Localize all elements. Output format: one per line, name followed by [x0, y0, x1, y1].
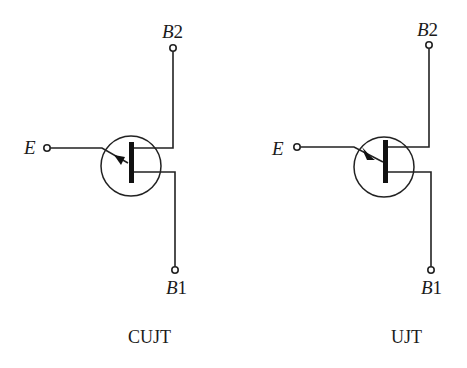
cujt-base2-lead — [134, 51, 173, 148]
ujt-base2-terminal — [426, 42, 432, 48]
ujt-symbol: E B2 B1 UJT — [271, 19, 442, 347]
ujt-emitter-terminal — [294, 144, 300, 150]
cujt-caption: CUJT — [128, 327, 171, 347]
ujt-symbols-diagram: E B2 B1 CUJT E — [0, 0, 467, 368]
ujt-base-bar — [383, 140, 388, 183]
ujt-emitter-label: E — [271, 138, 284, 159]
ujt-base1-terminal — [428, 267, 434, 273]
cujt-base1-terminal — [172, 267, 178, 273]
ujt-emitter-arrow-fill — [363, 151, 375, 160]
cujt-symbol: E B2 B1 CUJT — [23, 21, 187, 347]
cujt-emitter-terminal — [44, 145, 50, 151]
cujt-base1-label: B1 — [166, 277, 187, 298]
ujt-base2-lead — [388, 48, 429, 147]
cujt-base2-label: B2 — [162, 21, 183, 42]
cujt-base1-lead — [134, 172, 175, 267]
cujt-base-bar — [129, 142, 134, 183]
ujt-caption: UJT — [391, 327, 422, 347]
cujt-emitter-arrow-icon — [114, 155, 125, 165]
ujt-base1-label: B1 — [421, 277, 442, 298]
cujt-emitter-label: E — [23, 137, 36, 158]
ujt-base2-label: B2 — [417, 19, 438, 40]
ujt-base1-lead — [388, 172, 431, 267]
cujt-base2-terminal — [170, 45, 176, 51]
